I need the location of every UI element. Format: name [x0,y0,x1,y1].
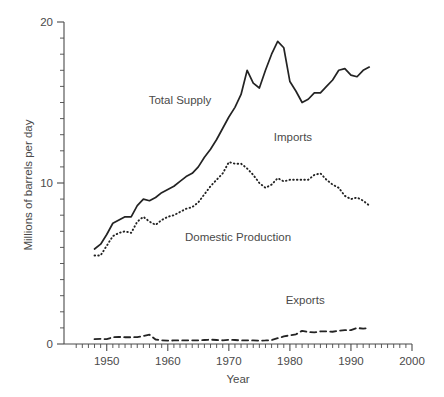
y-axis-title: Millions of barrels per day [22,119,34,250]
annotation-domestic-production: Domestic Production [185,231,291,243]
annotation-imports: Imports [274,131,313,143]
y-tick-label: 0 [47,338,53,350]
x-axis-ticks [76,344,412,351]
chart-container: 01020 195019601970198019902000 Total Sup… [0,0,444,397]
x-axis: 195019601970198019902000 [64,344,425,367]
series-line-total-supply [95,41,370,249]
series-annotations: Total SupplyImportsDomestic ProductionEx… [149,94,325,306]
data-series-group [95,41,370,340]
y-axis-tick-labels: 01020 [40,16,53,350]
y-tick-label: 20 [40,16,53,28]
x-axis-title: Year [226,373,249,385]
petroleum-supply-line-chart: 01020 195019601970198019902000 Total Sup… [0,0,444,397]
x-tick-label: 1950 [94,355,120,367]
x-tick-label: 1970 [216,355,242,367]
x-axis-tick-labels: 195019601970198019902000 [94,355,425,367]
x-tick-label: 1990 [338,355,364,367]
x-tick-label: 2000 [399,355,425,367]
x-tick-label: 1960 [155,355,181,367]
y-axis: 01020 [40,16,64,350]
annotation-total-supply: Total Supply [149,94,212,106]
y-axis-ticks [57,22,64,344]
series-line-exports [95,328,370,341]
y-tick-label: 10 [40,177,53,189]
x-tick-label: 1980 [277,355,303,367]
annotation-exports: Exports [286,294,325,306]
